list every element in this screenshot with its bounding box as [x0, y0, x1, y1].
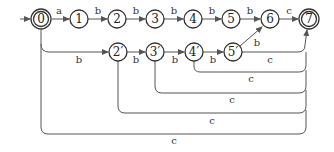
- state-7: 7: [299, 9, 319, 29]
- svg-text:5: 5: [227, 12, 235, 26]
- svg-text:3′: 3′: [150, 45, 161, 59]
- svg-text:3: 3: [151, 12, 159, 26]
- label-e4p5p: b: [210, 54, 216, 65]
- state-0: 0: [31, 9, 51, 29]
- svg-text:5′: 5′: [228, 45, 239, 59]
- label-e0-2p: b: [76, 54, 82, 65]
- edge-5p-7: [242, 30, 307, 52]
- label-e45: b: [209, 5, 215, 16]
- label-e67: c: [286, 5, 292, 16]
- svg-text:2′: 2′: [113, 45, 124, 59]
- edge-0-2p: [41, 30, 108, 52]
- state-2-prime: 2′: [109, 43, 127, 61]
- label-e5p7: c: [267, 54, 273, 65]
- state-4-prime: 4′: [185, 43, 203, 61]
- state-5-prime: 5′: [224, 43, 242, 61]
- label-e2p3p: b: [133, 54, 139, 65]
- label-e3p7: c: [229, 94, 235, 105]
- state-2: 2: [108, 10, 126, 28]
- svg-text:2: 2: [113, 12, 121, 26]
- edge-3p-7: [155, 61, 306, 93]
- label-e3p4p: b: [172, 54, 178, 65]
- label-e07: c: [171, 135, 177, 146]
- svg-text:6: 6: [266, 12, 274, 26]
- automaton-diagram: a b b b b b c b b b b b c c c c c 0 1 2 …: [0, 0, 334, 152]
- label-e4p7: c: [248, 73, 254, 84]
- state-4: 4: [184, 10, 202, 28]
- state-3: 3: [146, 10, 164, 28]
- state-1: 1: [70, 10, 88, 28]
- label-e56: b: [247, 5, 253, 16]
- edge-2p-7: [118, 61, 306, 113]
- label-e5p6: b: [254, 37, 260, 48]
- state-6: 6: [261, 10, 279, 28]
- label-e01: a: [56, 5, 62, 16]
- svg-text:4: 4: [189, 12, 197, 26]
- svg-text:0: 0: [37, 12, 45, 26]
- label-e2p7: c: [209, 115, 215, 126]
- svg-text:4′: 4′: [189, 45, 200, 59]
- state-5: 5: [222, 10, 240, 28]
- svg-text:1: 1: [75, 12, 83, 26]
- state-3-prime: 3′: [146, 43, 164, 61]
- label-e34: b: [171, 5, 177, 16]
- label-e23: b: [133, 5, 139, 16]
- svg-text:7: 7: [305, 12, 313, 26]
- label-e12: b: [95, 5, 101, 16]
